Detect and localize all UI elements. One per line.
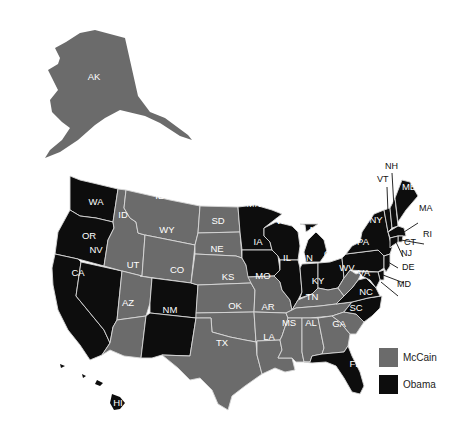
label-ID: ID — [118, 209, 128, 220]
label-TX: TX — [216, 337, 229, 348]
label-OK: OK — [228, 300, 242, 311]
legend-label-mccain: McCain — [403, 352, 437, 363]
label-WA: WA — [89, 196, 105, 207]
label-IN: IN — [303, 252, 313, 263]
label-LA: LA — [263, 331, 275, 342]
label-NY: NY — [369, 214, 383, 225]
label-AZ: AZ — [122, 297, 134, 308]
label-KY: KY — [312, 275, 325, 286]
label-MD: MD — [397, 279, 411, 289]
legend-item-mccain: McCain — [379, 346, 437, 368]
label-CA: CA — [71, 267, 85, 278]
label-DE: DE — [402, 262, 415, 272]
legend: McCain Obama — [379, 346, 437, 400]
label-NE: NE — [210, 243, 223, 254]
obama-swatch — [379, 375, 398, 394]
label-IA: IA — [254, 236, 264, 247]
label-MS: MS — [282, 317, 296, 328]
label-AK: AK — [88, 71, 101, 82]
label-IL: IL — [283, 252, 291, 263]
state-NM[interactable] — [141, 313, 196, 358]
legend-item-obama: Obama — [379, 373, 437, 395]
label-CO: CO — [170, 264, 184, 275]
label-MT: ID — [155, 190, 165, 201]
label-RI: RI — [423, 229, 432, 239]
state-CT[interactable] — [390, 236, 398, 248]
label-PA: PA — [357, 236, 370, 247]
label-HI: HI — [113, 397, 123, 408]
state-RI[interactable] — [398, 236, 403, 242]
state-UT[interactable] — [117, 271, 152, 320]
label-NH: NH — [385, 161, 398, 171]
label-MI: MI — [310, 224, 321, 235]
label-CT: CT — [404, 237, 416, 247]
label-GA: GA — [332, 318, 346, 329]
state-KS[interactable] — [196, 283, 255, 313]
label-MN: MN — [247, 198, 262, 209]
label-SD: SD — [211, 215, 224, 226]
legend-label-obama: Obama — [403, 379, 436, 390]
label-OR: OR — [82, 230, 96, 241]
label-ND: ND — [210, 188, 224, 199]
label-FL: FL — [349, 358, 360, 369]
label-TN: TN — [306, 291, 319, 302]
label-AL: AL — [305, 317, 317, 328]
label-KS: KS — [222, 271, 235, 282]
label-ME: ME — [402, 181, 416, 192]
label-VA: VA — [358, 267, 371, 278]
label-SC: SC — [349, 302, 362, 313]
label-NC: NC — [359, 286, 373, 297]
label-VT: VT — [377, 174, 389, 184]
label-MO: MO — [255, 270, 270, 281]
label-UT: UT — [127, 259, 140, 270]
label-WY: WY — [159, 224, 175, 235]
label-AR: AR — [261, 301, 274, 312]
label-NM: NM — [163, 304, 178, 315]
label-WI: WI — [276, 215, 288, 226]
state-AK[interactable] — [45, 30, 192, 158]
label-WV: WV — [339, 262, 355, 273]
label-NV: NV — [89, 244, 103, 255]
label-NJ: NJ — [401, 248, 412, 258]
mccain-swatch — [379, 348, 398, 367]
label-MA: MA — [419, 203, 433, 213]
label-OH: OH — [324, 248, 338, 259]
